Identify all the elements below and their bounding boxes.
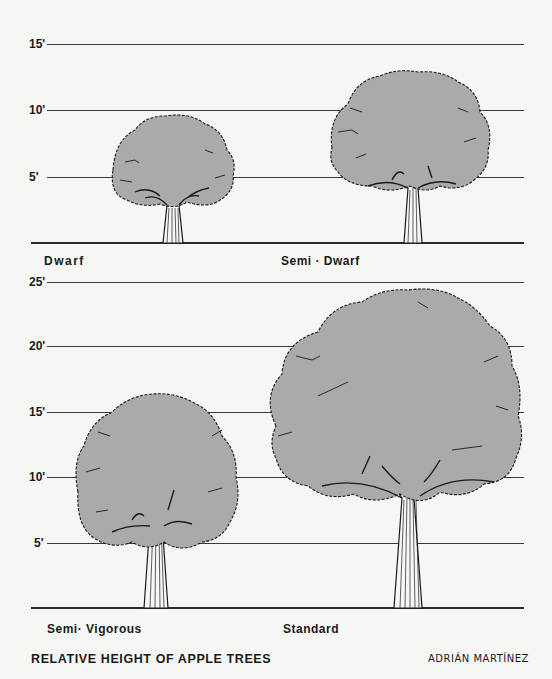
tick-25ft-bottom: 25' bbox=[29, 276, 45, 288]
semi-vigorous-tree-illustration bbox=[72, 392, 244, 610]
standard-tree-illustration bbox=[262, 286, 524, 610]
tick-10ft-bottom: 10' bbox=[29, 471, 45, 483]
diagram-title: RELATIVE HEIGHT OF APPLE TREES bbox=[31, 652, 271, 666]
tick-5ft-top: 5' bbox=[29, 171, 39, 183]
tree-label-dwarf: Dwarf bbox=[44, 254, 85, 268]
tick-5ft-bottom: 5' bbox=[34, 537, 44, 549]
tree-label-standard: Standard bbox=[283, 622, 339, 636]
semi-dwarf-tree-illustration bbox=[328, 68, 498, 245]
dwarf-tree-illustration bbox=[105, 110, 245, 245]
author-signature: ADRIÁN MARTÍNEZ bbox=[428, 653, 529, 664]
tree-label-semi-vigorous: Semi· Vigorous bbox=[47, 622, 142, 636]
gridline-15ft-top bbox=[47, 44, 524, 45]
tree-label-semi-dwarf: Semi · Dwarf bbox=[281, 254, 360, 268]
tick-15ft-bottom: 15' bbox=[29, 406, 45, 418]
tick-20ft-bottom: 20' bbox=[29, 340, 45, 352]
tick-10ft-top: 10' bbox=[29, 104, 45, 116]
gridline-25ft-bottom bbox=[47, 282, 524, 283]
tick-15ft-top: 15' bbox=[29, 38, 45, 50]
